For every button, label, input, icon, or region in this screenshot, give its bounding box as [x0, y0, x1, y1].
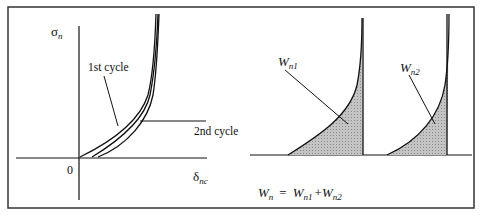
work-area-plots: Wn1 Wn2 Wn=Wn1+Wn2 — [250, 14, 472, 202]
label-wn2: Wn2 — [400, 60, 420, 77]
label-wn1: Wn1 — [278, 54, 298, 71]
y-axis-label: σn — [51, 24, 63, 41]
leader-wn1 — [285, 70, 348, 124]
loading-curve-1 — [80, 14, 156, 157]
label-1st-cycle: 1st cycle — [88, 61, 129, 74]
loading-cycle-plot: σn δnc 0 1st cycle 2nd cycle — [16, 14, 238, 200]
diagram: σn δnc 0 1st cycle 2nd cycle Wn1 Wn2 Wn=… — [0, 0, 484, 220]
shaded-area-wn1 — [288, 18, 363, 155]
unloading-curve-1 — [92, 14, 158, 157]
x-axis-label: δnc — [193, 169, 208, 186]
origin-label: 0 — [67, 163, 73, 177]
figure-frame — [8, 7, 474, 208]
formula: Wn=Wn1+Wn2 — [258, 185, 342, 202]
leader-wn2 — [409, 75, 435, 124]
leader-1st-cycle — [104, 76, 118, 126]
label-2nd-cycle: 2nd cycle — [194, 125, 238, 138]
